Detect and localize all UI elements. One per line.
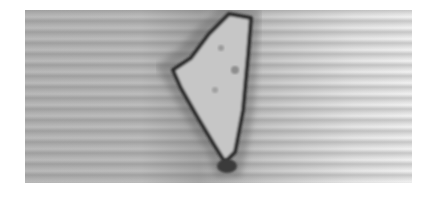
micrograph-image	[25, 10, 412, 183]
cell-shape	[25, 10, 412, 183]
